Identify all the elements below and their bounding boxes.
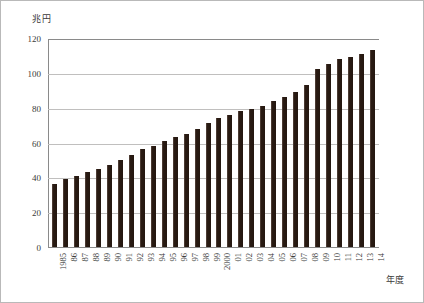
bar-slot [356, 39, 367, 247]
bar [249, 109, 254, 247]
bar-slot [224, 39, 235, 247]
bar [96, 169, 101, 247]
bar [271, 101, 276, 247]
bar-slot [71, 39, 82, 247]
bar-slot [49, 39, 60, 247]
bar-slot [203, 39, 214, 247]
bar-slot [148, 39, 159, 247]
bar [85, 172, 90, 247]
x-tick-label: 14 [376, 253, 386, 262]
x-tick-label: 12 [354, 253, 364, 262]
bar-slot [290, 39, 301, 247]
bar-slot [192, 39, 203, 247]
y-axis-unit-label: 兆円 [32, 12, 51, 25]
x-tick-label: 98 [201, 253, 211, 262]
bar-slot [126, 39, 137, 247]
x-tick-label: 92 [135, 253, 145, 262]
x-tick-label: 03 [255, 253, 265, 262]
bar [293, 92, 298, 247]
bar [52, 184, 57, 247]
bar [173, 137, 178, 247]
x-tick-label: 1985 [58, 253, 68, 270]
x-tick-label: 90 [113, 253, 123, 262]
bar-slot [170, 39, 181, 247]
y-tick-label: 60 [1, 139, 41, 149]
bar-slot [257, 39, 268, 247]
bar-slot [60, 39, 71, 247]
bar-slot [268, 39, 279, 247]
x-tick-label: 01 [233, 253, 243, 262]
bar [74, 176, 79, 247]
bar [348, 57, 353, 247]
bar [184, 134, 189, 247]
bar-slot [181, 39, 192, 247]
x-tick-label: 88 [91, 253, 101, 262]
bar-slot [82, 39, 93, 247]
bar [260, 106, 265, 247]
x-tick-label: 93 [146, 253, 156, 262]
bar [151, 146, 156, 247]
y-tick-label: 0 [1, 243, 41, 253]
bar [370, 50, 375, 247]
bar [206, 123, 211, 247]
bar-slot [104, 39, 115, 247]
x-tick-label: 87 [80, 253, 90, 262]
y-tick-label: 20 [1, 208, 41, 218]
y-tick-label: 120 [1, 34, 41, 44]
x-tick-label: 07 [299, 253, 309, 262]
bar-slot [312, 39, 323, 247]
bar-slot [323, 39, 334, 247]
x-tick-label: 09 [321, 253, 331, 262]
x-tick-label: 02 [244, 253, 254, 262]
x-axis-name-label: 年度 [386, 273, 404, 286]
x-tick-label: 10 [332, 253, 342, 262]
bar-slot [367, 39, 378, 247]
bar-slot [235, 39, 246, 247]
y-tick-label: 40 [1, 173, 41, 183]
chart-figure: 兆円 020406080100120 198586878889909192939… [0, 0, 424, 303]
x-tick-label: 95 [168, 253, 178, 262]
y-tick-label: 100 [1, 69, 41, 79]
x-tick-label: 96 [179, 253, 189, 262]
bar-slot [115, 39, 126, 247]
bar-slot [279, 39, 290, 247]
bar [326, 64, 331, 247]
x-tick-label: 06 [288, 253, 298, 262]
x-tick-label: 99 [212, 253, 222, 262]
bar [63, 179, 68, 247]
y-tick-label: 80 [1, 104, 41, 114]
plot-area [48, 39, 379, 248]
bar [140, 149, 145, 247]
bar [315, 69, 320, 247]
x-tick-label: 11 [343, 253, 353, 261]
x-tick-label: 97 [190, 253, 200, 262]
bar-slot [301, 39, 312, 247]
bar [227, 115, 232, 247]
bar-slot [334, 39, 345, 247]
x-tick-label: 2000 [222, 253, 232, 270]
bar-slot [159, 39, 170, 247]
bar-slot [93, 39, 104, 247]
bar [359, 54, 364, 247]
x-tick-label: 94 [157, 253, 167, 262]
bar [216, 118, 221, 247]
bar-slot [214, 39, 225, 247]
x-tick-label: 13 [365, 253, 375, 262]
bar [282, 97, 287, 247]
bar [107, 165, 112, 247]
x-tick-label: 04 [266, 253, 276, 262]
bar [129, 155, 134, 247]
bar-series [49, 39, 379, 247]
x-tick-label: 86 [69, 253, 79, 262]
x-tick-label: 89 [102, 253, 112, 262]
bar-slot [137, 39, 148, 247]
bar [304, 85, 309, 247]
bar [162, 141, 167, 247]
x-tick-label: 08 [310, 253, 320, 262]
bar-slot [345, 39, 356, 247]
x-tick-label: 91 [124, 253, 134, 262]
bar-slot [246, 39, 257, 247]
bar [195, 129, 200, 247]
x-tick-label: 05 [277, 253, 287, 262]
bar [238, 111, 243, 247]
